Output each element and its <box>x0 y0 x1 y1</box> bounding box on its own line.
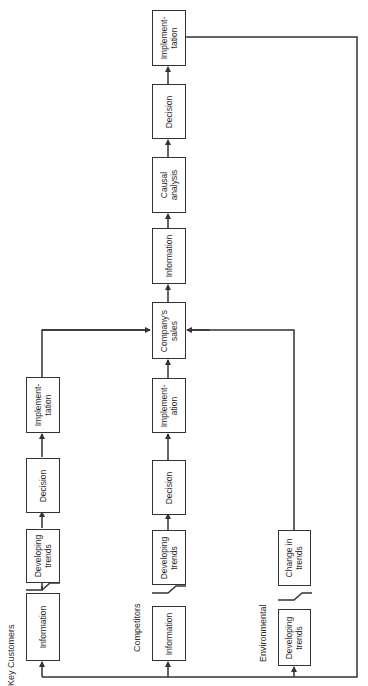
kc-decision-box: Decision <box>26 458 60 513</box>
box-label: Information <box>164 612 174 655</box>
box-label: Implement- tation <box>159 17 179 60</box>
env-developing-trends-box: Developing trends <box>278 609 311 666</box>
kc-developing-trends-box: Developing trends <box>26 529 60 583</box>
box-label: Implement- ation <box>159 384 179 427</box>
box-label: Decision <box>164 95 174 128</box>
main-decision-box: Decision <box>152 84 186 139</box>
box-label: Decision <box>38 469 48 502</box>
box-label: Information <box>164 235 174 278</box>
group-label-key-customers: Key Customers <box>6 624 16 686</box>
box-label: Decision <box>164 471 174 504</box>
main-information-box: Information <box>152 228 186 284</box>
box-label: Information <box>38 606 48 649</box>
box-label: Developing trends <box>33 535 53 578</box>
causal-analysis-box: Causal analysis <box>152 157 186 213</box>
box-label: Causal analysis <box>159 170 179 201</box>
kc-implementation-box: Implement- tation <box>26 377 60 433</box>
box-label: Implement- tation <box>33 384 53 427</box>
group-label-environmental: Environmental <box>258 604 268 662</box>
companys-sales-box: Company's sales <box>152 302 186 359</box>
co-developing-trends-box: Developing trends <box>152 530 186 585</box>
box-label: Developing trends <box>285 616 305 659</box>
box-label: Change in trends <box>285 539 305 578</box>
co-implementation-box: Implement- ation <box>152 378 186 433</box>
kc-information-box: Information <box>26 593 60 661</box>
group-label-competitors: Competitors <box>132 603 142 652</box>
box-label: Company's sales <box>159 309 179 351</box>
env-change-in-trends-box: Change in trends <box>278 530 311 586</box>
box-label: Developing trends <box>159 536 179 579</box>
main-implementation-box: Implement- tation <box>152 10 186 66</box>
co-decision-box: Decision <box>152 460 186 515</box>
co-information-box: Information <box>152 606 186 661</box>
